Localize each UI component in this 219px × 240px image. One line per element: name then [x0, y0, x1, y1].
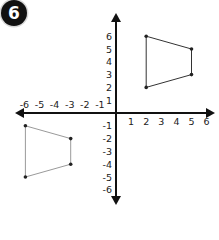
vertex-point: [24, 175, 28, 179]
vertex-point: [144, 34, 148, 38]
x-tick-label: -1: [95, 99, 104, 110]
x-tick-label: -4: [50, 99, 59, 110]
y-axis-down-arrow-icon: [111, 196, 121, 205]
x-tick-label: -6: [20, 99, 29, 110]
vertex-point: [69, 162, 73, 166]
vertex-point: [190, 73, 194, 77]
x-tick-label: 6: [204, 116, 210, 127]
y-tick-label: 4: [106, 56, 112, 67]
x-tick-label: -5: [35, 99, 44, 110]
y-tick-label: 3: [106, 69, 112, 80]
x-tick-label: 2: [143, 116, 149, 127]
x-tick-label: 3: [158, 116, 164, 127]
y-tick-label: 6: [106, 31, 112, 42]
y-axis: [111, 13, 121, 205]
quadrilateral-quadrant-3: [24, 124, 73, 179]
x-tick-label: 1: [128, 116, 134, 127]
y-tick-label: 1: [106, 95, 112, 106]
coordinate-plane: -6-5-4-3-2-1123456 654321-1-2-3-4-5-6: [0, 0, 219, 240]
y-tick-label: -5: [103, 172, 112, 183]
y-tick-label: -3: [103, 146, 112, 157]
y-axis-up-arrow-icon: [111, 13, 121, 22]
vertex-point: [24, 124, 28, 128]
x-tick-label: -2: [80, 99, 89, 110]
quadrilateral-outline: [25, 126, 70, 177]
x-tick-label: -3: [65, 99, 74, 110]
x-tick-label: 4: [173, 116, 179, 127]
vertex-point: [69, 137, 73, 141]
x-tick-label: 5: [188, 116, 194, 127]
y-tick-label: -6: [103, 184, 112, 195]
vertex-point: [144, 86, 148, 90]
y-tick-label: -1: [103, 120, 112, 131]
quadrilateral-quadrant-1: [144, 34, 193, 89]
y-tick-label: -2: [103, 133, 112, 144]
vertex-point: [190, 47, 194, 51]
quadrilateral-outline: [146, 36, 191, 87]
y-tick-label: 2: [106, 82, 112, 93]
y-tick-label: 5: [106, 44, 112, 55]
y-tick-label: -4: [103, 159, 112, 170]
